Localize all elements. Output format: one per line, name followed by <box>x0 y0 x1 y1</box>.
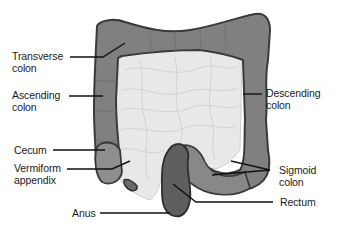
label-rectum: Rectum <box>280 196 316 208</box>
label-vermiform-appendix: Vermiform appendix <box>14 162 61 186</box>
rectum <box>162 144 191 216</box>
label-anus: Anus <box>72 207 96 219</box>
label-descending-colon: Descending colon <box>266 87 320 111</box>
label-cecum: Cecum <box>14 144 47 156</box>
label-ascending-colon: Ascending colon <box>12 89 60 113</box>
cecum <box>95 143 122 184</box>
label-transverse-colon: Transverse colon <box>12 50 63 74</box>
colon-diagram: Transverse colon Ascending colon Descend… <box>0 0 337 231</box>
label-sigmoid-colon: Sigmoid colon <box>279 164 316 188</box>
